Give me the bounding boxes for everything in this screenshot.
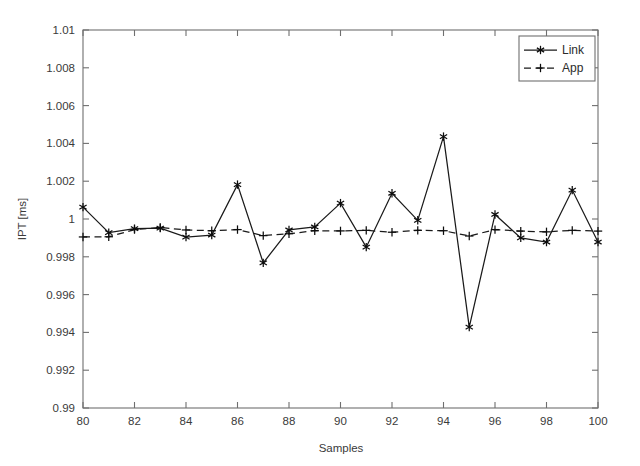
x-tick-label: 86 bbox=[231, 415, 244, 427]
y-tick-label: 1.004 bbox=[46, 137, 75, 149]
x-tick-label: 100 bbox=[588, 415, 607, 427]
ipt-samples-line-chart: 80828486889092949698100 0.990.9920.9940.… bbox=[0, 0, 640, 466]
x-tick-label: 96 bbox=[489, 415, 502, 427]
y-tick-label: 1.006 bbox=[46, 100, 75, 112]
y-tick-label: 1 bbox=[69, 213, 75, 225]
chart-figure: 80828486889092949698100 0.990.9920.9940.… bbox=[0, 0, 640, 466]
legend-label: Link bbox=[562, 43, 585, 57]
x-tick-label: 88 bbox=[283, 415, 296, 427]
x-tick-label: 82 bbox=[128, 415, 141, 427]
x-axis-label: Samples bbox=[319, 442, 364, 454]
y-tick-label: 1.002 bbox=[46, 175, 75, 187]
x-tick-label: 94 bbox=[437, 415, 450, 427]
y-tick-label: 1.01 bbox=[53, 24, 75, 36]
y-tick-label: 0.994 bbox=[46, 326, 75, 338]
x-tick-label: 84 bbox=[180, 415, 193, 427]
y-tick-label: 0.992 bbox=[46, 364, 75, 376]
y-tick-label: 0.996 bbox=[46, 289, 75, 301]
x-tick-label: 98 bbox=[540, 415, 553, 427]
x-tick-label: 90 bbox=[334, 415, 347, 427]
y-tick-label: 0.998 bbox=[46, 251, 75, 263]
x-tick-label: 80 bbox=[77, 415, 90, 427]
chart-legend: LinkApp bbox=[519, 36, 595, 81]
y-axis-label: IPT [ms] bbox=[16, 198, 28, 241]
y-tick-label: 0.99 bbox=[53, 402, 75, 414]
legend-label: App bbox=[562, 61, 584, 75]
y-tick-label: 1.008 bbox=[46, 62, 75, 74]
x-tick-label: 92 bbox=[386, 415, 399, 427]
